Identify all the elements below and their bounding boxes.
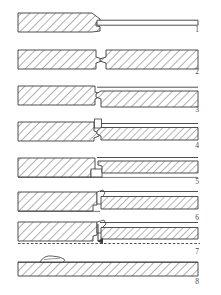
step-7-left-block [18, 222, 97, 241]
step-8-joined-bar [18, 262, 198, 276]
step-2-left-block [18, 50, 102, 69]
step-label-8: 8 [195, 277, 199, 286]
step-7-right-block [101, 228, 198, 240]
step-label-4: 4 [195, 141, 199, 150]
step-6-left-block [18, 192, 97, 211]
step-label-2: 2 [195, 67, 199, 76]
step-label-7: 7 [195, 247, 199, 256]
step-5-step-detail [91, 169, 102, 177]
step-5-right-block [98, 161, 198, 173]
joint-forming-sequence-svg: 1 2 3 4 5 6 7 8 [0, 0, 221, 295]
step-1-right-strip [97, 20, 198, 25]
step-5-left-block [18, 158, 95, 177]
step-3-left-block [18, 86, 101, 105]
step-4-right-block [97, 128, 198, 141]
step-2-right-block [100, 50, 198, 69]
step-2-group [18, 50, 198, 69]
technical-diagram-figure: 1 2 3 4 5 6 7 8 [0, 0, 221, 295]
step-6-right-block [101, 197, 198, 210]
step-1-left-block [18, 13, 100, 32]
step-label-1: 1 [195, 25, 199, 34]
step-label-3: 3 [195, 105, 199, 114]
step-3-right-block [96, 91, 198, 107]
step-label-5: 5 [195, 177, 199, 186]
step-4-left-block [18, 122, 99, 141]
diagram-background [0, 0, 221, 295]
step-label-6: 6 [195, 213, 199, 222]
step-4-flash-element [95, 119, 102, 128]
